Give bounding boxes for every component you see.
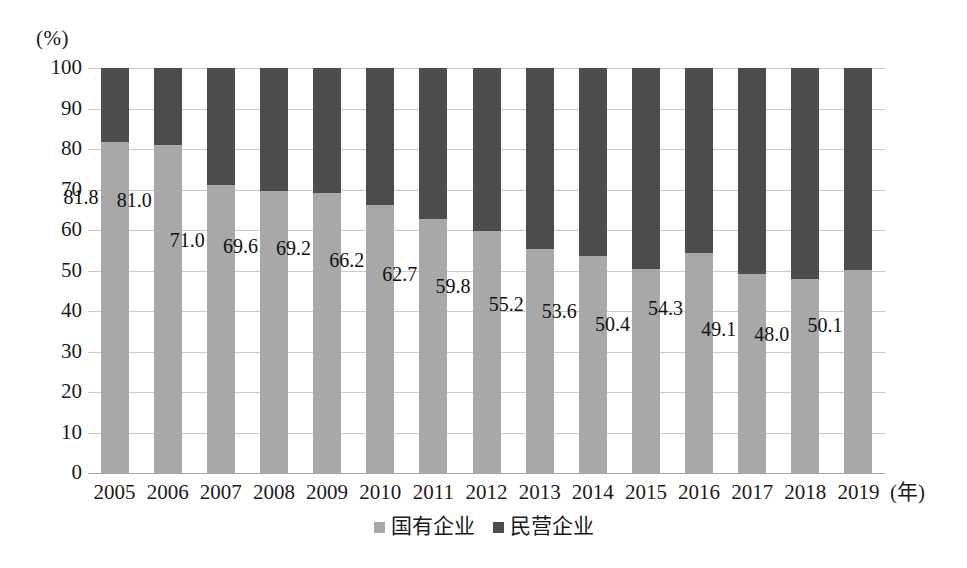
y-tick-label-90: 90: [10, 98, 82, 119]
y-tick-label-100: 100: [10, 57, 82, 78]
data-label: 59.8: [436, 276, 471, 296]
x-tick-label-2016: 2016: [678, 479, 720, 505]
gridline-0: [88, 473, 885, 474]
chart-legend: 国有企业民营企业: [0, 513, 967, 539]
data-label: 54.3: [648, 298, 683, 318]
x-tick-label-2010: 2010: [359, 479, 401, 505]
legend-label: 国有企业: [391, 513, 475, 539]
y-tick-label-80: 80: [10, 138, 82, 159]
y-tick-label-20: 20: [10, 381, 82, 402]
x-axis-tick-labels: 2005200620072008200920102011201220132014…: [88, 479, 885, 509]
data-label: 50.4: [595, 314, 630, 334]
x-tick-label-2011: 2011: [413, 479, 454, 505]
x-tick-label-2017: 2017: [731, 479, 773, 505]
data-label: 48.0: [754, 324, 789, 344]
data-label-container: 81.881.071.069.669.266.262.759.855.253.6…: [88, 68, 885, 473]
legend-swatch-icon: [493, 522, 504, 533]
y-tick-label-0: 0: [10, 462, 82, 483]
x-tick-label-2014: 2014: [572, 479, 614, 505]
legend-label: 民营企业: [510, 513, 594, 539]
y-tick-label-40: 40: [10, 300, 82, 321]
y-tick-label-60: 60: [10, 219, 82, 240]
x-tick-label-2015: 2015: [625, 479, 667, 505]
x-tick-label-2012: 2012: [466, 479, 508, 505]
y-tick-label-10: 10: [10, 422, 82, 443]
data-label: 62.7: [382, 264, 417, 284]
data-label: 66.2: [329, 250, 364, 270]
x-axis-unit-label: (年): [890, 479, 925, 505]
y-tick-label-50: 50: [10, 260, 82, 281]
x-tick-label-2013: 2013: [519, 479, 561, 505]
x-tick-label-2005: 2005: [94, 479, 136, 505]
data-label: 53.6: [542, 301, 577, 321]
x-tick-label-2007: 2007: [200, 479, 242, 505]
y-axis-tick-labels: 1009080706050403020100: [0, 68, 82, 473]
stacked-bar-chart: (%) 1009080706050403020100 81.881.071.06…: [0, 0, 967, 568]
data-label: 69.2: [276, 238, 311, 258]
legend-swatch-icon: [374, 522, 385, 533]
x-tick-label-2018: 2018: [784, 479, 826, 505]
x-tick-label-2019: 2019: [837, 479, 879, 505]
legend-item[interactable]: 国有企业: [374, 513, 475, 539]
y-axis-unit-label: (%): [36, 26, 69, 50]
legend-item[interactable]: 民营企业: [493, 513, 594, 539]
data-label: 81.0: [117, 190, 152, 210]
y-tick-label-30: 30: [10, 341, 82, 362]
data-label: 49.1: [701, 319, 736, 339]
data-label: 71.0: [170, 230, 205, 250]
data-label: 50.1: [807, 315, 842, 335]
data-label: 55.2: [489, 294, 524, 314]
data-label: 81.8: [64, 187, 99, 207]
x-tick-label-2009: 2009: [306, 479, 348, 505]
x-tick-label-2008: 2008: [253, 479, 295, 505]
x-tick-label-2006: 2006: [147, 479, 189, 505]
data-label: 69.6: [223, 236, 258, 256]
